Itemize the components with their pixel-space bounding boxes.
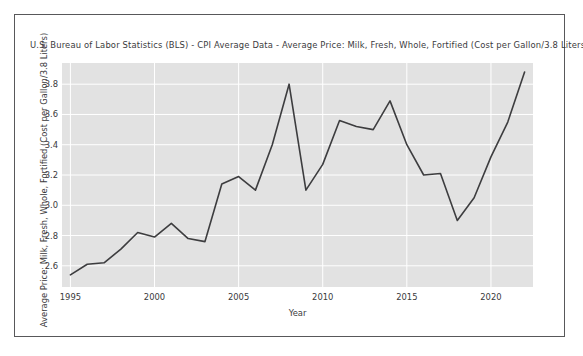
x-tick-label: 2005 <box>228 292 249 302</box>
y-tick-label: 3.0 <box>24 200 58 210</box>
y-tick-label: 3.8 <box>24 79 58 89</box>
y-tick-label: 3.6 <box>24 109 58 119</box>
chart-title: U.S. Bureau of Labor Statistics (BLS) - … <box>30 40 576 51</box>
data-series-line <box>70 72 524 275</box>
x-tick-label: 2020 <box>480 292 501 302</box>
x-axis-label: Year <box>62 308 533 318</box>
plot-area <box>62 63 533 287</box>
y-tick-label: 3.4 <box>24 140 58 150</box>
line-chart-svg <box>62 63 533 287</box>
figure-page: U.S. Bureau of Labor Statistics (BLS) - … <box>0 0 583 356</box>
y-axis-tick-labels: 2.62.83.03.23.43.63.8 <box>22 0 58 356</box>
x-tick-label: 2000 <box>144 292 165 302</box>
y-tick-label: 2.6 <box>24 261 58 271</box>
x-tick-label: 1995 <box>60 292 81 302</box>
y-tick-label: 2.8 <box>24 231 58 241</box>
x-tick-label: 2010 <box>312 292 333 302</box>
y-tick-label: 3.2 <box>24 170 58 180</box>
x-tick-label: 2015 <box>396 292 417 302</box>
